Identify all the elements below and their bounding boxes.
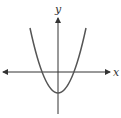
y-axis-label: y	[54, 3, 62, 16]
parabola-graph: y x	[0, 0, 121, 118]
x-axis-label: x	[113, 66, 120, 79]
